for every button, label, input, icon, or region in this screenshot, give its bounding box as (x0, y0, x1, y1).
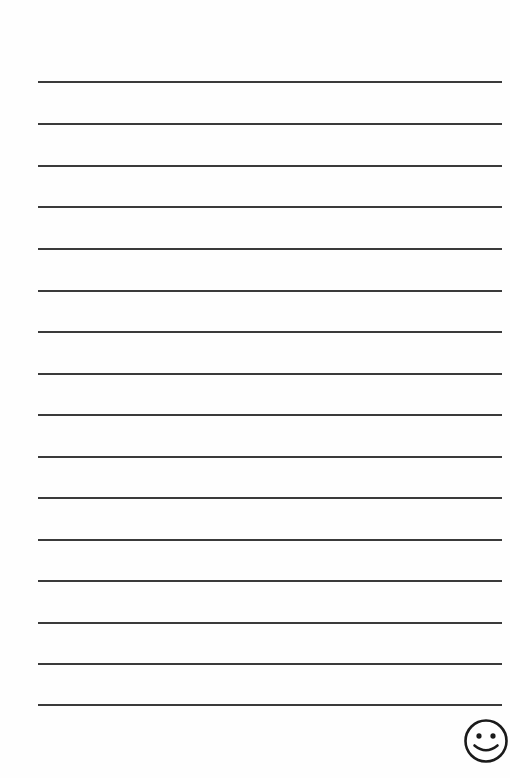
ruled-line (38, 622, 502, 624)
ruled-line (38, 165, 502, 167)
ruled-line (38, 81, 502, 83)
smiley-face-icon (462, 718, 510, 766)
ruled-line (38, 663, 502, 665)
lined-paper-page (0, 0, 510, 778)
ruled-line (38, 414, 502, 416)
ruled-line (38, 580, 502, 582)
ruled-line (38, 373, 502, 375)
ruled-line (38, 290, 502, 292)
ruled-line (38, 456, 502, 458)
ruled-line (38, 331, 502, 333)
ruled-line (38, 206, 502, 208)
ruled-line (38, 497, 502, 499)
ruled-line (38, 123, 502, 125)
ruled-line (38, 539, 502, 541)
ruled-line (38, 704, 502, 706)
ruled-line (38, 248, 502, 250)
